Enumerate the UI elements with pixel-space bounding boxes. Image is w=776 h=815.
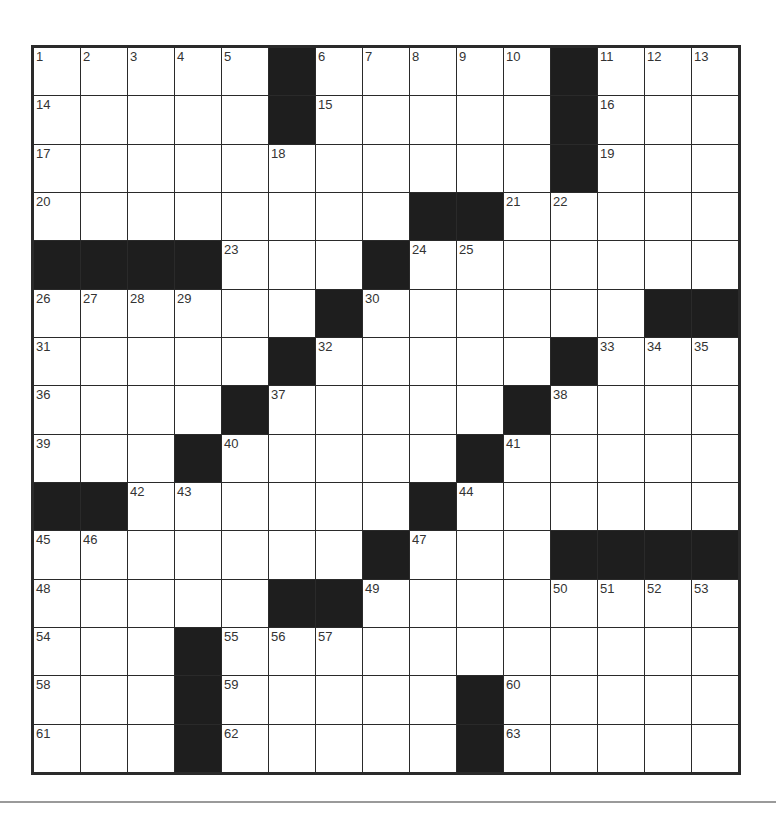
grid-cell[interactable]	[222, 531, 268, 578]
grid-cell[interactable]	[645, 241, 691, 288]
grid-cell[interactable]: 19	[598, 145, 644, 192]
grid-cell[interactable]: 27	[81, 290, 127, 337]
grid-cell[interactable]	[410, 386, 456, 433]
grid-cell[interactable]	[222, 338, 268, 385]
grid-cell[interactable]: 34	[645, 338, 691, 385]
grid-cell[interactable]	[457, 531, 503, 578]
grid-cell[interactable]: 48	[34, 580, 80, 627]
grid-cell[interactable]	[504, 580, 550, 627]
grid-cell[interactable]: 45	[34, 531, 80, 578]
grid-cell[interactable]: 6	[316, 48, 362, 95]
grid-cell[interactable]: 21	[504, 193, 550, 240]
grid-cell[interactable]	[457, 338, 503, 385]
grid-cell[interactable]: 36	[34, 386, 80, 433]
grid-cell[interactable]	[128, 725, 174, 772]
grid-cell[interactable]: 49	[363, 580, 409, 627]
grid-cell[interactable]: 12	[645, 48, 691, 95]
grid-cell[interactable]	[598, 725, 644, 772]
grid-cell[interactable]	[692, 386, 738, 433]
grid-cell[interactable]	[363, 483, 409, 530]
grid-cell[interactable]: 13	[692, 48, 738, 95]
grid-cell[interactable]	[81, 725, 127, 772]
grid-cell[interactable]	[222, 96, 268, 143]
grid-cell[interactable]	[175, 531, 221, 578]
grid-cell[interactable]	[598, 290, 644, 337]
grid-cell[interactable]	[128, 193, 174, 240]
grid-cell[interactable]: 11	[598, 48, 644, 95]
grid-cell[interactable]	[551, 676, 597, 723]
grid-cell[interactable]	[175, 145, 221, 192]
grid-cell[interactable]: 39	[34, 435, 80, 482]
grid-cell[interactable]	[81, 628, 127, 675]
grid-cell[interactable]	[222, 290, 268, 337]
grid-cell[interactable]: 5	[222, 48, 268, 95]
grid-cell[interactable]	[222, 483, 268, 530]
grid-cell[interactable]: 3	[128, 48, 174, 95]
grid-cell[interactable]	[645, 145, 691, 192]
grid-cell[interactable]	[692, 145, 738, 192]
grid-cell[interactable]	[504, 483, 550, 530]
grid-cell[interactable]	[81, 676, 127, 723]
grid-cell[interactable]	[175, 96, 221, 143]
grid-cell[interactable]	[645, 725, 691, 772]
grid-cell[interactable]: 23	[222, 241, 268, 288]
grid-cell[interactable]	[551, 725, 597, 772]
grid-cell[interactable]	[363, 386, 409, 433]
grid-cell[interactable]	[504, 96, 550, 143]
grid-cell[interactable]: 57	[316, 628, 362, 675]
grid-cell[interactable]	[363, 96, 409, 143]
grid-cell[interactable]	[457, 96, 503, 143]
grid-cell[interactable]	[222, 193, 268, 240]
grid-cell[interactable]	[269, 531, 315, 578]
grid-cell[interactable]: 55	[222, 628, 268, 675]
grid-cell[interactable]	[692, 628, 738, 675]
grid-cell[interactable]	[410, 676, 456, 723]
grid-cell[interactable]	[81, 435, 127, 482]
grid-cell[interactable]	[316, 386, 362, 433]
grid-cell[interactable]	[457, 145, 503, 192]
grid-cell[interactable]	[598, 241, 644, 288]
grid-cell[interactable]	[692, 193, 738, 240]
grid-cell[interactable]	[269, 725, 315, 772]
grid-cell[interactable]	[175, 386, 221, 433]
grid-cell[interactable]	[316, 531, 362, 578]
grid-cell[interactable]	[269, 676, 315, 723]
grid-cell[interactable]	[128, 435, 174, 482]
grid-cell[interactable]	[598, 628, 644, 675]
grid-cell[interactable]	[363, 145, 409, 192]
grid-cell[interactable]: 30	[363, 290, 409, 337]
grid-cell[interactable]: 10	[504, 48, 550, 95]
grid-cell[interactable]: 22	[551, 193, 597, 240]
grid-cell[interactable]: 2	[81, 48, 127, 95]
grid-cell[interactable]: 17	[34, 145, 80, 192]
grid-cell[interactable]: 42	[128, 483, 174, 530]
grid-cell[interactable]	[692, 241, 738, 288]
grid-cell[interactable]	[457, 290, 503, 337]
grid-cell[interactable]	[81, 96, 127, 143]
grid-cell[interactable]: 61	[34, 725, 80, 772]
grid-cell[interactable]: 58	[34, 676, 80, 723]
grid-cell[interactable]: 60	[504, 676, 550, 723]
grid-cell[interactable]: 38	[551, 386, 597, 433]
grid-cell[interactable]	[410, 145, 456, 192]
grid-cell[interactable]	[598, 676, 644, 723]
grid-cell[interactable]	[269, 193, 315, 240]
grid-cell[interactable]	[128, 628, 174, 675]
grid-cell[interactable]: 62	[222, 725, 268, 772]
grid-cell[interactable]: 15	[316, 96, 362, 143]
grid-cell[interactable]: 46	[81, 531, 127, 578]
grid-cell[interactable]	[128, 145, 174, 192]
grid-cell[interactable]	[363, 338, 409, 385]
grid-cell[interactable]: 50	[551, 580, 597, 627]
grid-cell[interactable]	[504, 145, 550, 192]
grid-cell[interactable]: 43	[175, 483, 221, 530]
grid-cell[interactable]	[316, 483, 362, 530]
grid-cell[interactable]	[222, 580, 268, 627]
grid-cell[interactable]	[175, 338, 221, 385]
grid-cell[interactable]	[645, 96, 691, 143]
grid-cell[interactable]: 16	[598, 96, 644, 143]
grid-cell[interactable]	[316, 676, 362, 723]
grid-cell[interactable]: 32	[316, 338, 362, 385]
grid-cell[interactable]: 35	[692, 338, 738, 385]
grid-cell[interactable]	[363, 676, 409, 723]
